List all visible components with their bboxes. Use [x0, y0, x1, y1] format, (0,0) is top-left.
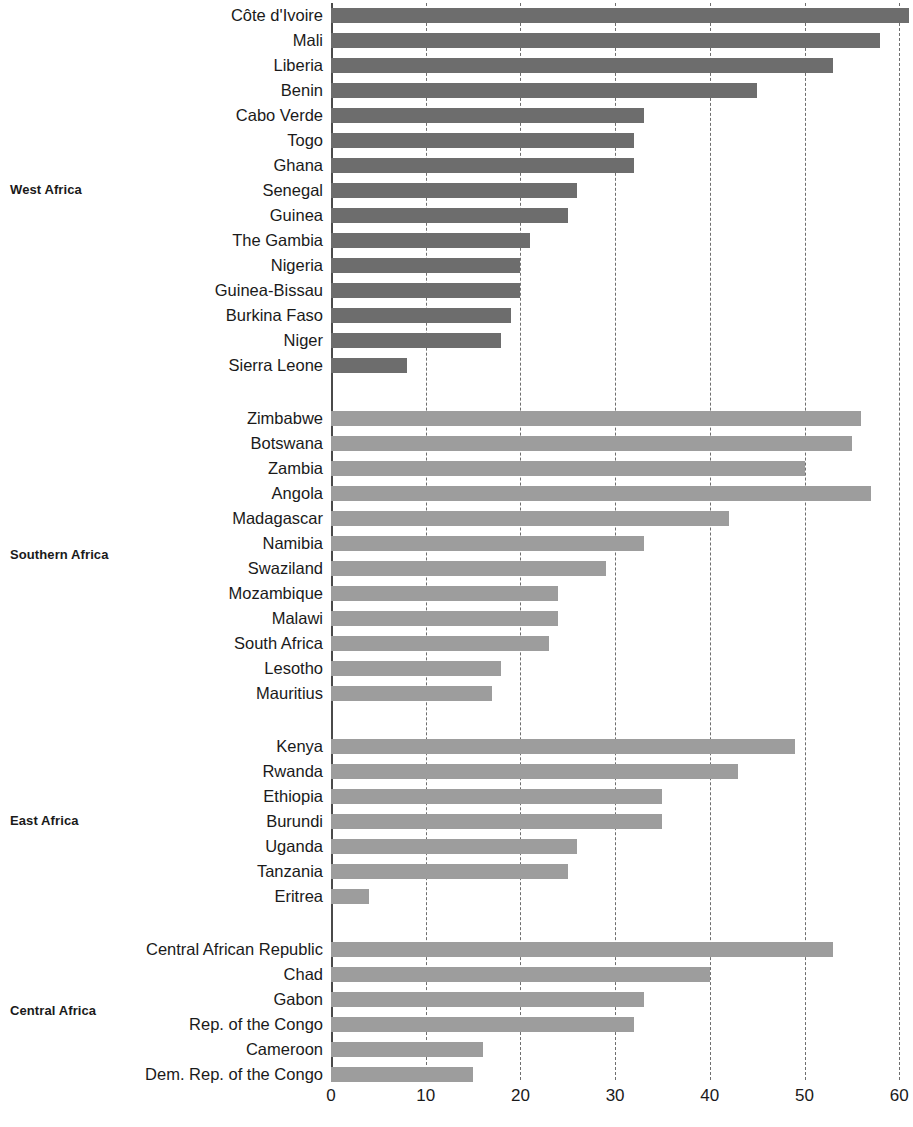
bar: [331, 258, 520, 273]
category-label: South Africa: [0, 631, 323, 656]
bar: [331, 33, 880, 48]
category-label: Cameroon: [0, 1037, 323, 1062]
category-label: Eritrea: [0, 884, 323, 909]
category-label: Ethiopia: [0, 784, 323, 809]
group-label-southern-africa: Southern Africa: [10, 547, 109, 562]
bar: [331, 814, 662, 829]
x-tick-label-0: 0: [311, 1086, 351, 1106]
category-label: Ghana: [0, 153, 323, 178]
x-tick-label-30: 30: [595, 1086, 635, 1106]
category-label: Cabo Verde: [0, 103, 323, 128]
category-label: Benin: [0, 78, 323, 103]
bar-row: [331, 784, 907, 809]
bar: [331, 611, 558, 626]
bar-row: [331, 28, 907, 53]
category-label: Niger: [0, 328, 323, 353]
bar: [331, 992, 644, 1007]
group-label-central-africa: Central Africa: [10, 1003, 96, 1018]
bar: [331, 839, 577, 854]
bar-row: [331, 859, 907, 884]
bar-row: [331, 556, 907, 581]
bar-row: [331, 353, 907, 378]
bar-row: [331, 53, 907, 78]
category-label: Lesotho: [0, 656, 323, 681]
bar: [331, 208, 568, 223]
x-tick-label-50: 50: [785, 1086, 825, 1106]
bar-row: [331, 809, 907, 834]
bar: [331, 108, 644, 123]
bar-row: [331, 734, 907, 759]
bar: [331, 661, 501, 676]
bar-row: [331, 506, 907, 531]
category-label: Malawi: [0, 606, 323, 631]
bar-row: [331, 178, 907, 203]
category-label: Uganda: [0, 834, 323, 859]
bar-row: [331, 303, 907, 328]
bar: [331, 58, 833, 73]
group-label-east-africa: East Africa: [10, 813, 79, 828]
category-label: Chad: [0, 962, 323, 987]
bar-row: [331, 481, 907, 506]
bar-row: [331, 456, 907, 481]
bar: [331, 358, 407, 373]
bar-row: [331, 581, 907, 606]
bar-row: [331, 103, 907, 128]
category-label: Central African Republic: [0, 937, 323, 962]
category-label: Guinea-Bissau: [0, 278, 323, 303]
bar-row: [331, 278, 907, 303]
x-tick-label-60: 60: [879, 1086, 913, 1106]
bar: [331, 511, 729, 526]
bar-row: [331, 1037, 907, 1062]
bar-row: [331, 78, 907, 103]
x-tick-label-40: 40: [690, 1086, 730, 1106]
bar: [331, 8, 909, 23]
category-label: Tanzania: [0, 859, 323, 884]
category-label: Botswana: [0, 431, 323, 456]
category-label: Angola: [0, 481, 323, 506]
category-label: Mauritius: [0, 681, 323, 706]
bar: [331, 133, 634, 148]
category-label: Kenya: [0, 734, 323, 759]
category-label: Burkina Faso: [0, 303, 323, 328]
category-label: Madagascar: [0, 506, 323, 531]
category-label: Côte d'Ivoire: [0, 3, 323, 28]
bar-row: [331, 884, 907, 909]
bar-row: [331, 962, 907, 987]
category-label: Sierra Leone: [0, 353, 323, 378]
category-label: Liberia: [0, 53, 323, 78]
bar: [331, 967, 710, 982]
group-label-west-africa: West Africa: [10, 182, 82, 197]
bar-row: [331, 631, 907, 656]
x-tick-label-20: 20: [500, 1086, 540, 1106]
bar: [331, 686, 492, 701]
bar-row: [331, 1012, 907, 1037]
bar-row: [331, 656, 907, 681]
bar: [331, 83, 757, 98]
bar: [331, 183, 577, 198]
category-label: Togo: [0, 128, 323, 153]
bar-row: [331, 759, 907, 784]
bar-row: [331, 228, 907, 253]
category-label: Rwanda: [0, 759, 323, 784]
bar: [331, 789, 662, 804]
bar-row: [331, 531, 907, 556]
bar: [331, 739, 795, 754]
category-label: Dem. Rep. of the Congo: [0, 1062, 323, 1087]
bar: [331, 308, 511, 323]
bar: [331, 536, 644, 551]
bar-row: [331, 328, 907, 353]
category-label: Zambia: [0, 456, 323, 481]
bar: [331, 233, 530, 248]
bar-row: [331, 153, 907, 178]
bar-row: [331, 834, 907, 859]
bar-row: [331, 406, 907, 431]
bar-row: [331, 937, 907, 962]
category-labels: Côte d'IvoireMaliLiberiaBeninCabo VerdeT…: [0, 0, 323, 1080]
x-tick-label-10: 10: [406, 1086, 446, 1106]
bar: [331, 411, 861, 426]
bar: [331, 1017, 634, 1032]
category-label: Mozambique: [0, 581, 323, 606]
bar: [331, 333, 501, 348]
category-label: Nigeria: [0, 253, 323, 278]
bar: [331, 1067, 473, 1082]
